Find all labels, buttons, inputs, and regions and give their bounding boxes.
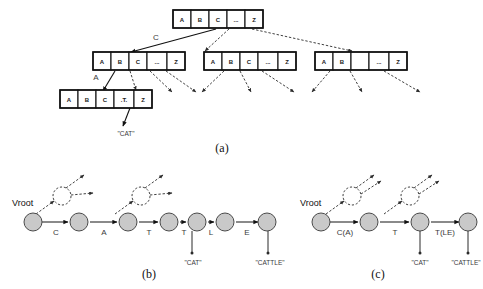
l2l-cell-label-1: B — [118, 59, 123, 65]
l3l-cell-label-1: B — [85, 97, 90, 103]
panel-b-edge-label-5: E — [244, 228, 249, 237]
chain-node-2 — [119, 213, 137, 231]
panel-c-edge-label-2: T(LE) — [435, 228, 455, 237]
chain-node-c3 — [459, 213, 477, 231]
chain-node-1 — [70, 213, 88, 231]
chain-node-3 — [160, 213, 178, 231]
l3l-cell-label-0: A — [67, 97, 72, 103]
chain-node-root — [24, 213, 42, 231]
root-cell-label-0: A — [180, 17, 185, 23]
panel-c-vroot-label: Vroot — [300, 198, 322, 208]
panel-b-edge-label-1: A — [101, 228, 107, 237]
l2r-cell-label-4: Z — [396, 59, 400, 65]
l2l-cell-label-2: C — [136, 59, 141, 65]
panel-c-word-cattle: "CATTLE" — [451, 259, 481, 266]
l2l-cell-label-4: Z — [174, 59, 178, 65]
panel-b-edge-label-0: C — [53, 228, 59, 237]
l2l-cell-label-0: A — [100, 59, 105, 65]
l2r-cell-2 — [351, 52, 369, 70]
caption-c: (c) — [371, 267, 384, 281]
panel-c-edge-label-1: T — [393, 228, 398, 237]
l3l-cell-label-4: Z — [141, 97, 145, 103]
l2m-cell-label-4: Z — [285, 59, 289, 65]
l2r-cell-label-3: ... — [376, 59, 381, 65]
chain-node-c-root — [312, 213, 330, 231]
trie-structure-figure: A B C ... Z C A B C ... Z — [0, 0, 483, 289]
panel-a-level2-right-node: A B ... Z — [315, 52, 407, 70]
chain-node-6 — [258, 213, 276, 231]
figure-background — [0, 0, 483, 289]
panel-b-edge-label-3: T — [182, 228, 187, 237]
chain-node-c1 — [360, 213, 378, 231]
panel-a-edge-label-a: A — [93, 73, 99, 82]
panel-a-root-node: A B C ... Z — [173, 10, 263, 28]
l3l-cell-label-3: .T. — [121, 97, 128, 103]
l2m-cell-label-1: B — [229, 59, 234, 65]
l2m-cell-label-3: ... — [265, 59, 270, 65]
root-cell-label-2: C — [216, 17, 221, 23]
panel-a-edge-label-c: C — [153, 33, 159, 42]
root-cell-label-4: Z — [252, 17, 256, 23]
panel-b-word-cat: "CAT" — [184, 259, 202, 266]
root-cell-label-1: B — [198, 17, 203, 23]
panel-c-edge-label-0: C(A) — [337, 228, 354, 237]
l2r-cell-label-0: A — [322, 59, 327, 65]
panel-a-level3-left-node: A B C .T. Z — [60, 90, 152, 108]
panel-a-level2-middle-node: A B C ... Z — [204, 52, 296, 70]
chain-node-c2 — [411, 213, 429, 231]
root-cell-label-3: ... — [233, 17, 238, 23]
l2l-cell-label-3: ... — [154, 59, 159, 65]
caption-a: (a) — [215, 141, 228, 155]
l3l-cell-label-2: C — [103, 97, 108, 103]
l2r-cell-label-1: B — [340, 59, 345, 65]
panel-c-word-cat: "CAT" — [411, 259, 429, 266]
caption-b: (b) — [142, 267, 156, 281]
l2m-cell-label-0: A — [211, 59, 216, 65]
panel-a-word-cat: "CAT" — [117, 130, 135, 137]
panel-b-edge-label-2: T — [147, 228, 152, 237]
panel-b-edge-label-4: L — [209, 228, 214, 237]
l2m-cell-label-2: C — [247, 59, 252, 65]
panel-b-word-cattle: "CATTLE" — [255, 259, 285, 266]
chain-node-5 — [216, 213, 234, 231]
panel-a-level2-left-node: A B C ... Z — [93, 52, 185, 70]
panel-b-vroot-label: Vroot — [12, 198, 34, 208]
chain-node-4 — [188, 213, 206, 231]
